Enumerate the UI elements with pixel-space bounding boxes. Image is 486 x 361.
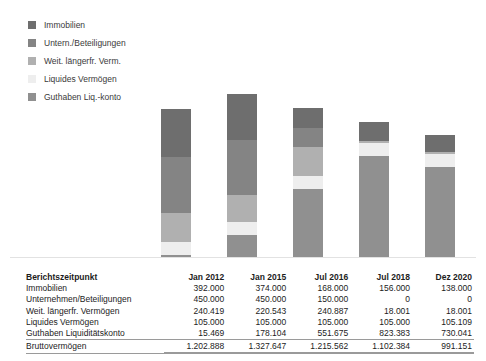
table-cell-value: 240.419 <box>164 306 226 317</box>
bar-segment-liquides <box>425 154 455 167</box>
bar-segment-immobilien <box>425 135 455 152</box>
table-cell-value: 156.000 <box>350 283 412 294</box>
bar-segment-guthaben <box>359 156 389 257</box>
table-column-header: Dez 2020 <box>412 272 474 283</box>
bar-segment-unternehmen <box>227 140 257 195</box>
table-cell-value: 105.000 <box>350 317 412 328</box>
table-cell-value: 15.469 <box>164 328 226 340</box>
table-cell-value: 374.000 <box>226 283 288 294</box>
table-row: Immobilien392.000374.000168.000156.00013… <box>26 283 474 294</box>
bar-jul-2016 <box>293 0 323 257</box>
bar-segment-weit_laengerfr <box>293 147 323 177</box>
bar-segment-immobilien <box>359 122 389 141</box>
table-cell-value: 823.383 <box>350 328 412 340</box>
bars-container <box>0 0 486 257</box>
table-cell-value: 178.104 <box>226 328 288 340</box>
bar-segment-guthaben <box>425 167 455 257</box>
table-body: Immobilien392.000374.000168.000156.00013… <box>26 283 474 353</box>
table-cell-value: 392.000 <box>164 283 226 294</box>
table-total-value: 1.327.647 <box>226 340 288 354</box>
bar-segment-weit_laengerfr <box>227 195 257 222</box>
bar-segment-weit_laengerfr <box>161 213 191 243</box>
table-row-label: Unternehmen/Beteiligungen <box>26 294 164 305</box>
stacked-bar-chart <box>0 0 486 262</box>
table-cell-value: 450.000 <box>164 294 226 305</box>
table-cell-value: 220.543 <box>226 306 288 317</box>
bar-segment-guthaben <box>227 235 257 257</box>
bar-dez-2020 <box>425 0 455 257</box>
table-total-value: 1.202.888 <box>164 340 226 354</box>
table-cell-value: 240.887 <box>288 306 350 317</box>
table-head: Berichtszeitpunkt Jan 2012Jan 2015Jul 20… <box>26 272 474 283</box>
table-cell-value: 105.000 <box>226 317 288 328</box>
bar-jul-2018 <box>359 0 389 257</box>
table-row: Weit. längerfr. Vermögen240.419220.54324… <box>26 306 474 317</box>
table-cell-value: 0 <box>412 294 474 305</box>
bar-segment-liquides <box>227 222 257 235</box>
bar-jan-2012 <box>161 0 191 257</box>
table-cell-value: 150.000 <box>288 294 350 305</box>
table-cell-value: 168.000 <box>288 283 350 294</box>
bar-segment-immobilien <box>293 108 323 129</box>
bar-segment-liquides <box>359 143 389 156</box>
table-row-label: Guthaben Liquiditätskonto <box>26 328 164 340</box>
table-cell-value: 105.000 <box>288 317 350 328</box>
table-cell-value: 450.000 <box>226 294 288 305</box>
table-row-label: Weit. längerfr. Vermögen <box>26 306 164 317</box>
table-total-row: Bruttovermögen1.202.8881.327.6471.215.56… <box>26 340 474 354</box>
table-row: Unternehmen/Beteiligungen450.000450.0001… <box>26 294 474 305</box>
table-row-label: Immobilien <box>26 283 164 294</box>
table-total-value: 1.102.384 <box>350 340 412 354</box>
table-cell-value: 551.675 <box>288 328 350 340</box>
table-header-row: Berichtszeitpunkt Jan 2012Jan 2015Jul 20… <box>26 272 474 283</box>
table-cell-value: 138.000 <box>412 283 474 294</box>
table-cell-value: 730.041 <box>412 328 474 340</box>
table-column-header: Jul 2016 <box>288 272 350 283</box>
bar-segment-liquides <box>293 176 323 189</box>
table-row-label: Liquides Vermögen <box>26 317 164 328</box>
bar-segment-immobilien <box>227 94 257 140</box>
table-column-header: Jul 2018 <box>350 272 412 283</box>
table-total-value: 1.215.562 <box>288 340 350 354</box>
chart-baseline <box>10 257 476 258</box>
table-header-row-label: Berichtszeitpunkt <box>26 272 164 283</box>
bar-segment-guthaben <box>293 189 323 257</box>
table-cell-value: 0 <box>350 294 412 305</box>
table-cell-value: 105.000 <box>164 317 226 328</box>
bar-jan-2015 <box>227 0 257 257</box>
table-column-header: Jan 2015 <box>226 272 288 283</box>
bar-segment-liquides <box>161 242 191 255</box>
table-total-label: Bruttovermögen <box>26 340 164 354</box>
table-cell-value: 105.109 <box>412 317 474 328</box>
table-cell-value: 18.001 <box>350 306 412 317</box>
bar-segment-unternehmen <box>161 157 191 212</box>
data-table: Berichtszeitpunkt Jan 2012Jan 2015Jul 20… <box>26 272 474 354</box>
table-row: Guthaben Liquiditätskonto15.469178.10455… <box>26 328 474 340</box>
table-column-header: Jan 2012 <box>164 272 226 283</box>
table-row: Liquides Vermögen105.000105.000105.00010… <box>26 317 474 328</box>
bar-segment-unternehmen <box>293 128 323 146</box>
table-cell-value: 18.001 <box>412 306 474 317</box>
bar-segment-immobilien <box>161 109 191 157</box>
table-total-value: 991.151 <box>412 340 474 354</box>
